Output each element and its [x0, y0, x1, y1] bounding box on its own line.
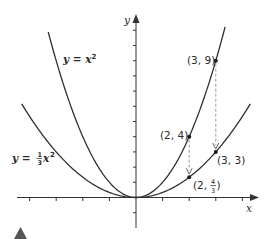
svg-text:): ) — [217, 179, 221, 191]
y-axis-arrow-icon — [133, 14, 140, 23]
svg-text:3: 3 — [211, 187, 215, 195]
x-axis-arrow-icon — [250, 194, 259, 201]
point-marker — [187, 175, 191, 179]
points — [187, 59, 218, 180]
x-axis-label: x — [246, 202, 252, 214]
point-label-2-four-thirds: (2, 4 3 ) — [193, 178, 221, 195]
arrow-head-icon — [186, 168, 192, 174]
svg-text:y =: y = — [11, 152, 31, 164]
plot-area: x y y = x2 y = 1 3 x 2 (3, 9) (2, 4) (3,… — [0, 0, 266, 239]
dashed-arrows — [186, 64, 219, 175]
svg-text:x: x — [42, 152, 50, 164]
curve-label-x-squared: y = x2 — [62, 53, 96, 65]
svg-text:4: 4 — [211, 178, 215, 186]
point-label-3-3: (3, 3) — [217, 154, 245, 166]
svg-text:1: 1 — [38, 151, 43, 159]
triangle-marker-icon — [14, 227, 27, 239]
y-axis-label: y — [123, 14, 131, 26]
point-label-2-4: (2, 4) — [160, 129, 188, 141]
axes: x y — [17, 14, 259, 228]
graph-figure: x y y = x2 y = 1 3 x 2 (3, 9) (2, 4) (3,… — [0, 0, 266, 239]
svg-text:(2,: (2, — [193, 179, 207, 191]
svg-text:2: 2 — [50, 151, 55, 159]
point-label-3-9: (3, 9) — [187, 54, 215, 66]
curve-label-third-x-squared: y = 1 3 x 2 — [11, 151, 55, 167]
svg-text:3: 3 — [38, 159, 43, 167]
